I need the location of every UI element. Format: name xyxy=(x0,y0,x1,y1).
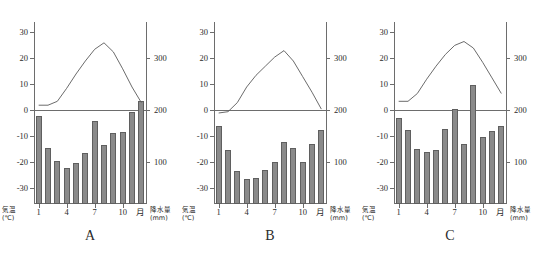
precipitation-tick-label: 100 xyxy=(334,158,360,167)
climograph-figure: 3020100-10-20-3030020010014710月気温(℃)降水量(… xyxy=(0,0,540,257)
temperature-tick-label: 30 xyxy=(6,28,28,37)
month-unit-label: 月 xyxy=(496,208,505,217)
climograph-panel: 3020100-10-20-3030020010014710月気温(℃)降水量(… xyxy=(180,0,360,257)
precipitation-tick-label: 300 xyxy=(514,54,540,63)
month-tick-label: 10 xyxy=(475,208,491,217)
temperature-tick-label: 0 xyxy=(186,106,208,115)
precipitation-axis-unit: (mm) xyxy=(510,215,528,222)
panel-letter: B xyxy=(180,228,360,243)
precipitation-tick-label: 100 xyxy=(514,158,540,167)
month-unit-label: 月 xyxy=(316,208,325,217)
precipitation-tick xyxy=(146,58,150,59)
precipitation-tick xyxy=(506,58,510,59)
precipitation-tick xyxy=(326,162,330,163)
month-tick-label: 1 xyxy=(391,208,407,217)
temperature-tick-label: 20 xyxy=(366,54,388,63)
month-tick-label: 7 xyxy=(267,208,283,217)
precipitation-tick xyxy=(146,162,150,163)
month-tick-label: 10 xyxy=(115,208,131,217)
plot-area: 3020100-10-20-3030020010014710月 xyxy=(394,22,506,204)
temperature-tick-label: 0 xyxy=(366,106,388,115)
precipitation-axis xyxy=(146,22,147,204)
temperature-axis-unit: (℃) xyxy=(2,215,14,222)
month-tick-label: 1 xyxy=(211,208,227,217)
precipitation-axis-title: 降水量 xyxy=(330,207,351,214)
precipitation-tick xyxy=(506,110,510,111)
precipitation-tick-label: 200 xyxy=(334,106,360,115)
temperature-axis-unit: (℃) xyxy=(362,215,374,222)
month-tick-label: 4 xyxy=(419,208,435,217)
temperature-curve xyxy=(394,22,506,204)
climograph-panel: 3020100-10-20-3030020010014710月気温(℃)降水量(… xyxy=(360,0,540,257)
temperature-tick-label: -20 xyxy=(6,158,28,167)
temperature-tick-label: 10 xyxy=(6,80,28,89)
month-unit-label: 月 xyxy=(136,208,145,217)
temperature-axis-unit: (℃) xyxy=(182,215,194,222)
plot-area: 3020100-10-20-3030020010014710月 xyxy=(34,22,146,204)
precipitation-axis-title: 降水量 xyxy=(510,207,531,214)
temperature-tick-label: 30 xyxy=(366,28,388,37)
temperature-tick-label: 20 xyxy=(6,54,28,63)
temperature-axis-title: 気温 xyxy=(2,207,16,214)
precipitation-axis-unit: (mm) xyxy=(330,215,348,222)
climograph-panel: 3020100-10-20-3030020010014710月気温(℃)降水量(… xyxy=(0,0,180,257)
temperature-tick-label: -10 xyxy=(366,132,388,141)
temperature-tick-label: -10 xyxy=(6,132,28,141)
temperature-tick-label: -30 xyxy=(186,184,208,193)
precipitation-tick-label: 300 xyxy=(334,54,360,63)
temperature-axis-title: 気温 xyxy=(182,207,196,214)
precipitation-axis xyxy=(326,22,327,204)
precipitation-tick-label: 200 xyxy=(154,106,180,115)
plot-area: 3020100-10-20-3030020010014710月 xyxy=(214,22,326,204)
temperature-tick-label: -20 xyxy=(186,158,208,167)
precipitation-tick-label: 200 xyxy=(514,106,540,115)
precipitation-axis-title: 降水量 xyxy=(150,207,171,214)
temperature-tick-label: 30 xyxy=(186,28,208,37)
temperature-tick-label: 10 xyxy=(366,80,388,89)
temperature-curve xyxy=(214,22,326,204)
temperature-tick-label: 20 xyxy=(186,54,208,63)
temperature-tick-label: -20 xyxy=(366,158,388,167)
precipitation-tick xyxy=(506,162,510,163)
precipitation-tick xyxy=(326,58,330,59)
precipitation-axis xyxy=(506,22,507,204)
temperature-tick-label: -30 xyxy=(366,184,388,193)
temperature-tick-label: 0 xyxy=(6,106,28,115)
precipitation-tick-label: 300 xyxy=(154,54,180,63)
month-tick-label: 1 xyxy=(31,208,47,217)
precipitation-axis-unit: (mm) xyxy=(150,215,168,222)
month-tick-label: 7 xyxy=(87,208,103,217)
panel-letter: C xyxy=(360,228,540,243)
month-tick-label: 4 xyxy=(59,208,75,217)
temperature-tick-label: 10 xyxy=(186,80,208,89)
precipitation-tick-label: 100 xyxy=(154,158,180,167)
month-tick-label: 10 xyxy=(295,208,311,217)
precipitation-tick xyxy=(326,110,330,111)
temperature-tick-label: -30 xyxy=(6,184,28,193)
temperature-axis-title: 気温 xyxy=(362,207,376,214)
precipitation-tick xyxy=(146,110,150,111)
month-tick-label: 4 xyxy=(239,208,255,217)
panel-letter: A xyxy=(0,228,180,243)
month-tick-label: 7 xyxy=(447,208,463,217)
temperature-tick-label: -10 xyxy=(186,132,208,141)
temperature-curve xyxy=(34,22,146,204)
